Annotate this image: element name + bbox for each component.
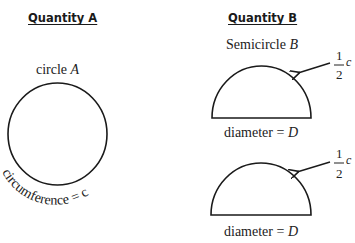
arc-var-label: c [346,153,352,167]
fraction-numerator: 1 [336,146,343,161]
arrow-icon [297,162,330,172]
circle-a [8,83,107,185]
fraction-denominator: 2 [336,166,343,181]
semicircle-b-label: Semicircle B [226,37,298,52]
arrow-icon [298,63,330,73]
diameter-label-2: diameter = D [224,224,298,239]
semicircle-b-1 [212,66,311,118]
circumference-label: circumference = c [0,166,91,208]
diameter-label-1: diameter = D [224,125,298,140]
fraction-denominator: 2 [336,67,343,82]
arc-var-label: c [346,55,352,69]
circle-a-label: circle A [36,62,80,77]
diagram-canvas: circle A circumference = c Semicircle B … [0,0,355,243]
semicircle-b-2 [211,163,311,215]
fraction-numerator: 1 [336,48,343,63]
